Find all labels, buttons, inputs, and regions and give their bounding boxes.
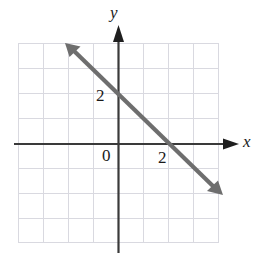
x-axis-arrowhead	[223, 139, 239, 150]
y-tick-label-2: 2	[96, 87, 105, 104]
x-axis-label: x	[243, 133, 251, 150]
origin-label: 0	[102, 147, 111, 164]
graph-canvas	[0, 0, 260, 253]
x-axis	[14, 139, 239, 150]
coordinate-plane-figure: y x 0 2 2	[0, 0, 260, 253]
y-axis-arrowhead	[113, 25, 124, 42]
y-axis-label: y	[110, 4, 118, 21]
x-tick-label-2: 2	[158, 149, 167, 166]
